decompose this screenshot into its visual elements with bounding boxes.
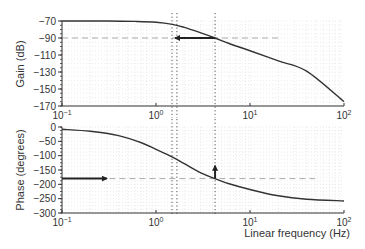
x-tick-label: 100	[148, 109, 163, 121]
phase-y-axis-label: Phase (degrees)	[14, 129, 26, 210]
gain-curve	[62, 21, 344, 102]
phase-panel: 0−50−100−150−200−250−30010−1100101102	[33, 119, 351, 228]
y-tick-label: −250	[33, 193, 56, 204]
x-tick-label: 102	[336, 109, 351, 121]
x-tick-label: 100	[148, 216, 163, 228]
y-tick-label: −100	[33, 150, 56, 161]
y-tick-label: 0	[50, 122, 56, 133]
y-tick-label: −150	[33, 165, 56, 176]
phase-curve	[62, 129, 344, 201]
x-tick-label: 101	[242, 109, 257, 121]
x-tick-label: 10−1	[52, 109, 71, 121]
gain-panel: −70−90−110−130−150−17010−1100101102	[33, 13, 351, 121]
y-tick-label: −150	[33, 84, 56, 95]
x-axis-label: Linear frequency (Hz)	[244, 227, 350, 239]
y-tick-label: −90	[39, 33, 56, 44]
y-tick-label: −70	[39, 16, 56, 27]
y-tick-label: −200	[33, 179, 56, 190]
bode-plot: −70−90−110−130−150−17010−1100101102 0−50…	[0, 0, 365, 249]
x-tick-label: 10−1	[52, 216, 71, 228]
y-tick-label: −50	[39, 136, 56, 147]
y-tick-label: −130	[33, 67, 56, 78]
y-tick-label: −110	[34, 50, 56, 61]
gain-y-axis-label: Gain (dB)	[14, 40, 26, 87]
